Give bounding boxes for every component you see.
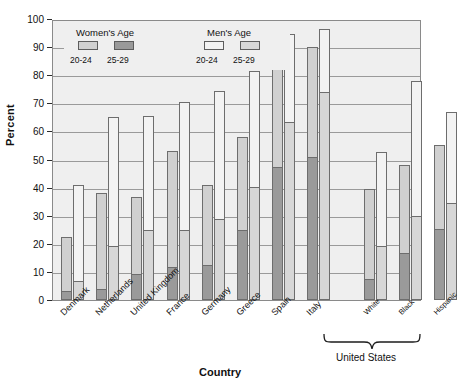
bar-men-greece <box>249 71 260 300</box>
legend-swatch-women-20-24 <box>78 41 98 50</box>
legend-label-women-20-24: 20-24 <box>70 55 92 65</box>
bar-men-black-lower-segment <box>412 216 421 299</box>
legend-label-men-25-29: 25-29 <box>233 55 255 65</box>
bar-women-united-kingdom-lower-segment <box>132 274 141 299</box>
bar-women-black-lower-segment <box>400 253 409 299</box>
x-tick-label-italy: Italy <box>305 299 324 318</box>
bar-men-hispanic-lower-segment <box>447 203 456 299</box>
bar-women-hispanic-lower-segment <box>435 229 444 299</box>
y-tick-label-50: 50 <box>18 156 44 166</box>
bar-women-white <box>364 189 375 300</box>
legend-title-women: Women's Age <box>76 27 134 38</box>
bar-women-white-lower-segment <box>365 279 374 299</box>
bar-men-netherlands <box>108 117 119 300</box>
bar-women-germany-lower-segment <box>203 265 212 299</box>
bar-group-white <box>364 19 387 300</box>
x-axis-title: Country <box>199 366 241 378</box>
bar-men-germany <box>214 91 225 300</box>
bar-women-italy <box>307 47 318 300</box>
y-tick-label-70: 70 <box>18 99 44 109</box>
united-states-label: United States <box>336 352 396 363</box>
united-states-bracket <box>322 333 422 351</box>
bar-men-italy <box>319 29 330 300</box>
bar-men-spain <box>284 34 295 300</box>
bar-women-spain-lower-segment <box>273 167 282 299</box>
y-tick-label-100: 100 <box>18 15 44 25</box>
bar-women-germany <box>202 185 213 300</box>
bar-men-france-lower-segment <box>180 230 189 299</box>
bar-women-hispanic <box>434 145 445 300</box>
bar-women-italy-lower-segment <box>308 157 317 299</box>
bar-men-denmark <box>73 185 84 300</box>
y-tick-label-80: 80 <box>18 71 44 81</box>
bar-women-greece-lower-segment <box>238 230 247 299</box>
bar-men-italy-lower-segment <box>320 92 329 299</box>
bar-group-hispanic <box>434 19 457 300</box>
legend-swatch-women-25-29 <box>114 41 134 50</box>
legend-label-men-20-24: 20-24 <box>196 55 218 65</box>
y-tick-label-40: 40 <box>18 184 44 194</box>
y-tick-label-0: 0 <box>18 296 44 306</box>
chart-legend: Women's Age Men's Age 20-24 25-29 20-24 … <box>64 24 290 70</box>
bar-group-italy <box>307 19 330 300</box>
legend-label-women-25-29: 25-29 <box>107 55 129 65</box>
bar-men-white-lower-segment <box>377 246 386 299</box>
bar-men-black <box>411 81 422 300</box>
plot-area: Women's Age Men's Age 20-24 25-29 20-24 … <box>52 20 421 301</box>
bar-men-hispanic <box>446 112 457 300</box>
bar-women-greece <box>237 137 248 300</box>
bar-women-black <box>399 165 410 300</box>
y-tick-label-30: 30 <box>18 212 44 222</box>
y-axis-title: Percent <box>4 130 16 146</box>
bar-men-united-kingdom <box>143 116 154 300</box>
bar-women-spain <box>272 56 283 300</box>
bar-group-black <box>399 19 422 300</box>
bar-men-greece-lower-segment <box>250 187 259 299</box>
bar-men-france <box>179 102 190 300</box>
y-tick-label-90: 90 <box>18 43 44 53</box>
bar-men-white <box>376 152 387 300</box>
legend-title-men: Men's Age <box>207 27 251 38</box>
y-tick-label-10: 10 <box>18 268 44 278</box>
legend-swatch-men-20-24 <box>204 41 224 50</box>
bar-men-spain-lower-segment <box>285 122 294 299</box>
bar-women-denmark <box>61 237 72 300</box>
y-tick-label-20: 20 <box>18 240 44 250</box>
legend-swatch-men-25-29 <box>240 41 260 50</box>
bar-women-netherlands <box>96 193 107 300</box>
y-tick-label-60: 60 <box>18 127 44 137</box>
